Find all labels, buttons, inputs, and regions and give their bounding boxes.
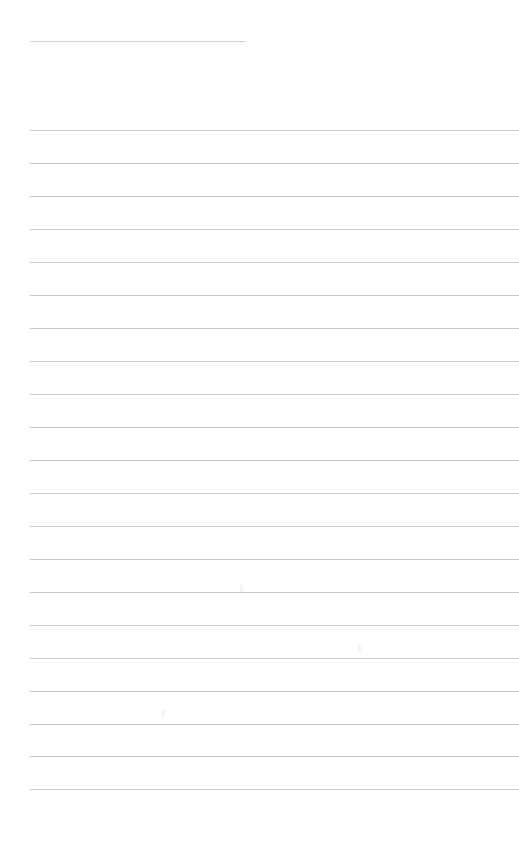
ruled-line[interactable]	[30, 328, 519, 329]
paper-speck	[240, 585, 243, 592]
ruled-line[interactable]	[30, 295, 519, 296]
ruled-line[interactable]	[30, 724, 519, 725]
ruled-line[interactable]	[30, 394, 519, 395]
paper-speck	[358, 645, 361, 652]
paper-speck	[162, 710, 165, 717]
ruled-line[interactable]	[30, 559, 519, 560]
ruled-line[interactable]	[30, 625, 519, 626]
ruled-line[interactable]	[30, 460, 519, 461]
ruled-line[interactable]	[30, 756, 519, 757]
ruled-line[interactable]	[30, 691, 519, 692]
ruled-line[interactable]	[30, 493, 519, 494]
ruled-line[interactable]	[30, 196, 519, 197]
ruled-line[interactable]	[30, 592, 519, 593]
ruled-line[interactable]	[30, 130, 519, 131]
ruled-line[interactable]	[30, 163, 519, 164]
ruled-line[interactable]	[30, 789, 519, 790]
ruled-line[interactable]	[30, 526, 519, 527]
ruled-line[interactable]	[30, 229, 519, 230]
ruled-line[interactable]	[30, 427, 519, 428]
ruled-line[interactable]	[30, 361, 519, 362]
ruled-line[interactable]	[30, 658, 519, 659]
title-rule[interactable]	[30, 41, 245, 42]
document-page	[0, 0, 519, 860]
ruled-line[interactable]	[30, 262, 519, 263]
